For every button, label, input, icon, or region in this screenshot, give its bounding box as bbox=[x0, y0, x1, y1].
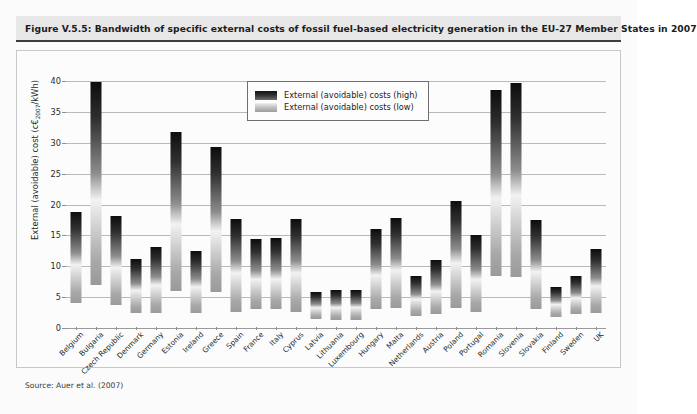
bar-malta bbox=[391, 218, 402, 308]
bar-slovakia bbox=[531, 220, 542, 309]
legend-swatch-low-icon bbox=[255, 103, 277, 112]
x-axis-tick-mark bbox=[256, 327, 257, 330]
bar-bulgaria bbox=[91, 82, 102, 284]
x-axis-tick-mark bbox=[596, 327, 597, 330]
legend-item-low: External (avoidable) costs (low) bbox=[255, 102, 418, 112]
bar-group bbox=[486, 75, 506, 328]
bar-estonia bbox=[171, 132, 182, 291]
y-axis-tick-label: 0 bbox=[56, 323, 61, 333]
x-axis-tick-mark bbox=[536, 327, 537, 330]
bar-hungary bbox=[371, 229, 382, 309]
y-axis-tick-label: 20 bbox=[51, 200, 61, 210]
x-axis-tick-mark bbox=[276, 327, 277, 330]
bar-group bbox=[106, 75, 126, 328]
x-axis-tick-mark bbox=[296, 327, 297, 330]
bar-germany bbox=[151, 247, 162, 313]
legend-label-high: External (avoidable) costs (high) bbox=[284, 90, 418, 100]
bar-group bbox=[506, 75, 526, 328]
bar-belgium bbox=[71, 212, 82, 303]
x-axis-tick-mark bbox=[416, 327, 417, 330]
x-axis-tick-mark bbox=[476, 327, 477, 330]
bar-spain bbox=[231, 219, 242, 312]
bar-group bbox=[86, 75, 106, 328]
x-axis-tick-label: UK bbox=[592, 330, 606, 344]
page-title: Figure V.5.5: Bandwidth of specific exte… bbox=[16, 23, 697, 34]
x-axis-tick-mark bbox=[516, 327, 517, 330]
bar-romania bbox=[491, 90, 502, 276]
bar-group bbox=[226, 75, 246, 328]
bar-luxembourg bbox=[351, 290, 362, 320]
x-axis-tick-mark bbox=[156, 327, 157, 330]
x-axis-tick-label: Austria bbox=[421, 330, 446, 355]
bar-ireland bbox=[191, 251, 202, 313]
bar-latvia bbox=[311, 292, 322, 319]
x-axis-tick-mark bbox=[336, 327, 337, 330]
y-axis-tick-label: 25 bbox=[51, 169, 61, 179]
chart-plot-frame: External (avoidable) cost (c€2007/kWh) 0… bbox=[16, 50, 621, 368]
legend-label-low: External (avoidable) costs (low) bbox=[284, 102, 414, 112]
bar-france bbox=[251, 239, 262, 310]
x-axis-tick-mark bbox=[196, 327, 197, 330]
x-axis-tick-mark bbox=[236, 327, 237, 330]
bar-group bbox=[186, 75, 206, 328]
bar-group bbox=[146, 75, 166, 328]
bar-denmark bbox=[131, 259, 142, 313]
x-axis-tick-mark bbox=[376, 327, 377, 330]
y-axis-tick-label: 40 bbox=[51, 76, 61, 86]
figure-title-band: Figure V.5.5: Bandwidth of specific exte… bbox=[16, 16, 621, 42]
x-axis-tick-mark bbox=[216, 327, 217, 330]
bar-group bbox=[546, 75, 566, 328]
x-axis-tick-label: France bbox=[242, 330, 266, 354]
x-axis-tick-mark bbox=[456, 327, 457, 330]
bar-greece bbox=[211, 147, 222, 293]
bar-group bbox=[446, 75, 466, 328]
x-axis-tick-mark bbox=[316, 327, 317, 330]
bar-cyprus bbox=[291, 219, 302, 312]
x-axis-tick-mark bbox=[116, 327, 117, 330]
bar-lithuania bbox=[331, 290, 342, 320]
y-axis-tick-label: 35 bbox=[51, 107, 61, 117]
y-axis-tick-label: 30 bbox=[51, 138, 61, 148]
y-axis-tick-label: 5 bbox=[56, 292, 61, 302]
legend-swatch-high-icon bbox=[255, 91, 277, 100]
bar-group bbox=[126, 75, 146, 328]
bar-group bbox=[206, 75, 226, 328]
bar-italy bbox=[271, 238, 282, 310]
y-axis-tick-label: 10 bbox=[51, 261, 61, 271]
x-axis-tick-mark bbox=[576, 327, 577, 330]
y-axis-tick-label: 15 bbox=[51, 230, 61, 240]
y-axis-title: External (avoidable) cost (c€2007/kWh) bbox=[30, 50, 40, 270]
x-axis-tick-mark bbox=[176, 327, 177, 330]
bar-group bbox=[66, 75, 86, 328]
bar-group bbox=[426, 75, 446, 328]
x-axis-tick-mark bbox=[136, 327, 137, 330]
bar-group bbox=[166, 75, 186, 328]
bar-austria bbox=[431, 260, 442, 315]
bar-group bbox=[526, 75, 546, 328]
x-axis-tick-mark bbox=[556, 327, 557, 330]
bar-slovenia bbox=[511, 83, 522, 277]
bar-group bbox=[566, 75, 586, 328]
bar-uk bbox=[591, 249, 602, 313]
x-axis-tick-mark bbox=[396, 327, 397, 330]
legend-item-high: External (avoidable) costs (high) bbox=[255, 90, 418, 100]
source-note: Source: Auer et al. (2007) bbox=[25, 381, 123, 390]
x-axis-tick-mark bbox=[436, 327, 437, 330]
bar-finland bbox=[551, 287, 562, 317]
x-axis-tick-mark bbox=[96, 327, 97, 330]
bar-portugal bbox=[471, 235, 482, 312]
bar-netherlands bbox=[411, 276, 422, 315]
x-axis-labels-layer: BelgiumBulgariaCzech RepublicDenmarkGerm… bbox=[66, 328, 606, 368]
x-axis-tick-mark bbox=[76, 327, 77, 330]
chart-legend: External (avoidable) costs (high) Extern… bbox=[247, 81, 429, 121]
bar-poland bbox=[451, 201, 462, 308]
x-axis-tick-label: Cyprus bbox=[281, 330, 306, 355]
bar-czech-republic bbox=[111, 216, 122, 305]
bar-group bbox=[586, 75, 606, 328]
bar-group bbox=[466, 75, 486, 328]
bar-sweden bbox=[571, 276, 582, 315]
x-axis-tick-mark bbox=[356, 327, 357, 330]
x-axis-tick-mark bbox=[496, 327, 497, 330]
